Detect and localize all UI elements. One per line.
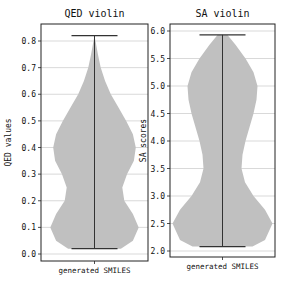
chart-title: QED violin: [64, 8, 124, 19]
x-category-label: generated SMILES: [186, 262, 259, 271]
y-tick-label: 0.6: [22, 90, 37, 99]
y-axis-label: SA scores: [139, 119, 148, 163]
y-tick-label: 0.2: [22, 197, 37, 206]
y-tick-label: 2.0: [151, 247, 166, 256]
panel-sa: 2.02.53.03.54.04.55.05.56.0generated SMI…: [139, 8, 275, 271]
y-tick-label: 3.5: [151, 165, 166, 174]
y-tick-label: 0.5: [22, 117, 37, 126]
violin-charts: 0.00.10.20.30.40.50.60.70.8generated SMI…: [0, 0, 285, 281]
y-tick-label: 0.1: [22, 223, 37, 232]
chart-title: SA violin: [195, 8, 249, 19]
y-tick-label: 3.0: [151, 192, 166, 201]
y-tick-label: 5.0: [151, 82, 166, 91]
y-tick-label: 5.5: [151, 55, 166, 64]
y-tick-label: 0.8: [22, 37, 37, 46]
y-tick-label: 0.7: [22, 64, 37, 73]
panel-qed: 0.00.10.20.30.40.50.60.70.8generated SMI…: [4, 8, 148, 275]
y-tick-label: 0.4: [22, 144, 37, 153]
y-tick-label: 0.3: [22, 170, 37, 179]
y-tick-label: 0.0: [22, 250, 37, 259]
y-tick-label: 4.5: [151, 110, 166, 119]
y-tick-label: 6.0: [151, 27, 166, 36]
y-tick-label: 2.5: [151, 220, 166, 229]
y-axis-label: QED values: [4, 118, 13, 166]
y-tick-label: 4.0: [151, 137, 166, 146]
x-category-label: generated SMILES: [58, 266, 131, 275]
